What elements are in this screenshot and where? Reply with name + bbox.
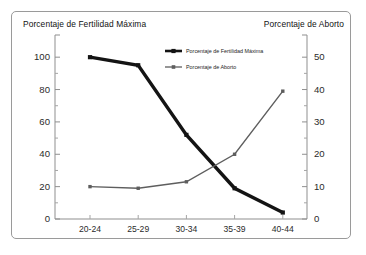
right-tick-label-40: 40 (314, 84, 342, 95)
legend-label-1: Porcentaje de Fertilidad Máxima (186, 48, 263, 54)
left-tick-label-20: 20 (22, 181, 50, 192)
chart-plot (0, 0, 366, 255)
data-point (281, 210, 285, 214)
series-1 (88, 55, 285, 215)
left-tick-label-60: 60 (22, 116, 50, 127)
x-tick-label-35-39: 35-39 (208, 224, 262, 234)
data-point (281, 89, 284, 92)
right-tick-label-50: 50 (314, 51, 342, 62)
right-tick-label-10: 10 (314, 181, 342, 192)
data-point (184, 133, 188, 137)
x-tick-label-40-44: 40-44 (256, 224, 310, 234)
x-tick-label-25-29: 25-29 (111, 224, 165, 234)
data-point (137, 187, 140, 190)
data-point (185, 180, 188, 183)
data-point (88, 185, 91, 188)
right-tick-label-30: 30 (314, 116, 342, 127)
right-tick-label-20: 20 (314, 148, 342, 159)
left-tick-label-80: 80 (22, 84, 50, 95)
data-point (136, 63, 140, 67)
left-tick-label-100: 100 (22, 51, 50, 62)
data-point (233, 186, 237, 190)
right-tick-label-0: 0 (314, 213, 342, 224)
data-point (88, 55, 92, 59)
x-tick-label-20-24: 20-24 (63, 224, 117, 234)
series-layer (88, 55, 285, 215)
series-2 (88, 89, 284, 189)
left-tick-label-0: 0 (22, 213, 50, 224)
legend-label-2: Porcentaje de Aborto (186, 64, 236, 70)
data-point (233, 153, 236, 156)
legend-marks (165, 49, 182, 69)
left-tick-label-40: 40 (22, 148, 50, 159)
x-tick-label-30-34: 30-34 (159, 224, 213, 234)
